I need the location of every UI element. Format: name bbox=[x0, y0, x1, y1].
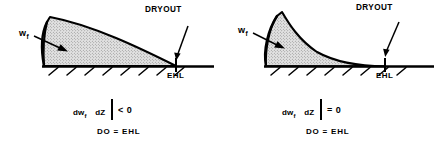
dryout-label-left: DRYOUT bbox=[145, 6, 182, 14]
film-region-right bbox=[266, 12, 385, 66]
dryout-arrow-left bbox=[174, 26, 188, 61]
wf-label-right-sub: f bbox=[245, 30, 248, 37]
dryout-arrow-right bbox=[383, 22, 399, 57]
evaluation-bar-right bbox=[320, 99, 322, 120]
formula-right: dwf dZ = 0 DO = EHL bbox=[280, 99, 350, 136]
relation-right: = 0 bbox=[327, 105, 341, 115]
formula-left-main: dwf dZ < 0 bbox=[71, 99, 141, 120]
wf-label-right: wf bbox=[238, 26, 248, 37]
formula-right-main: dwf dZ = 0 bbox=[280, 99, 350, 120]
derivative-fraction-left: dwf dZ bbox=[71, 101, 107, 119]
film-region-left bbox=[44, 17, 176, 66]
panel-right: DRYOUT EHL wf dwf dZ = 0 DO = EHL bbox=[221, 0, 441, 150]
ehl-label-right: EHL bbox=[376, 72, 393, 80]
derivative-numerator-left: dwf bbox=[71, 108, 89, 117]
derivative-fraction-right: dwf dZ bbox=[280, 101, 316, 119]
dryout-label-right: DRYOUT bbox=[356, 4, 393, 12]
panel-left: DRYOUT EHL wf dwf dZ < 0 DO = EHL bbox=[0, 0, 221, 150]
derivative-numerator-right: dwf bbox=[280, 108, 298, 117]
wall-hatching-left bbox=[49, 68, 184, 76]
wf-label-left: wf bbox=[19, 29, 29, 40]
wf-label-left-sub: f bbox=[26, 33, 29, 40]
formula-left: dwf dZ < 0 DO = EHL bbox=[71, 99, 141, 136]
condition-left: DO = EHL bbox=[71, 127, 141, 136]
derivative-denominator-left: dZ bbox=[93, 107, 107, 117]
derivative-denominator-right: dZ bbox=[302, 107, 316, 117]
ehl-label-left: EHL bbox=[167, 72, 184, 80]
relation-left: < 0 bbox=[118, 105, 132, 115]
condition-right: DO = EHL bbox=[280, 127, 350, 136]
evaluation-bar-left bbox=[111, 99, 113, 120]
